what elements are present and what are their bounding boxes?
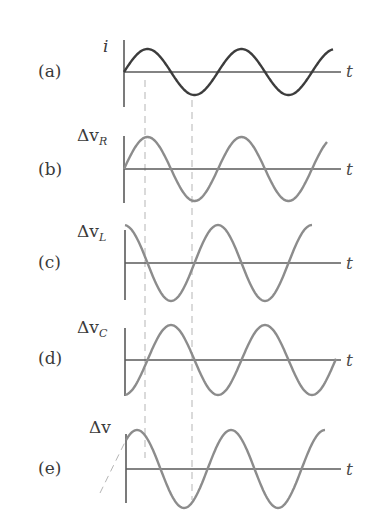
panel-e: (e) Δv t: [38, 417, 353, 508]
x-axis-label: t: [346, 253, 353, 273]
panel-c: (c) ΔvL t: [38, 221, 353, 301]
y-axis-label: ΔvC: [77, 317, 108, 340]
y-axis-label: Δv: [89, 417, 111, 437]
panel-label: (d): [38, 348, 62, 368]
panel-a: (a) i t: [38, 36, 353, 107]
panel-b: (b) ΔvR t: [38, 125, 353, 203]
panel-label: (b): [38, 159, 62, 179]
panel-d: (d) ΔvC t: [38, 317, 353, 396]
phase-extrapolation-line: [100, 440, 126, 493]
x-axis-label: t: [346, 159, 353, 179]
x-axis-label: t: [346, 61, 353, 81]
y-axis-label: ΔvL: [77, 221, 106, 244]
panel-label: (c): [38, 252, 61, 272]
rlc-phase-diagram: (a) i t (b) ΔvR t (c) ΔvL t (d) ΔvC t (e…: [0, 0, 382, 516]
panel-label: (e): [38, 458, 61, 478]
y-axis-label: ΔvR: [77, 125, 107, 148]
y-axis-label: i: [103, 36, 108, 56]
x-axis-label: t: [346, 459, 353, 479]
x-axis-label: t: [346, 350, 353, 370]
panel-label: (a): [38, 61, 61, 81]
